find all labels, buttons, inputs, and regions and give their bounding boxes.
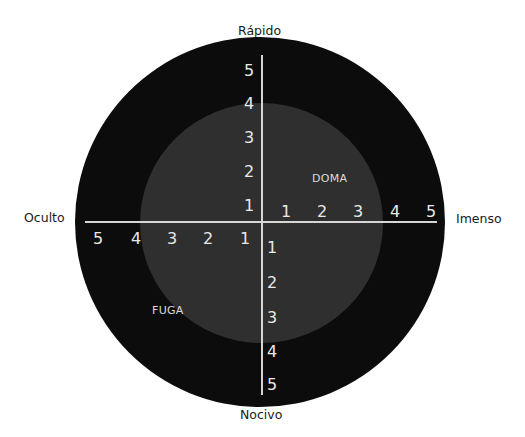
tick-up-1: 1	[239, 196, 259, 216]
tick-right-5: 5	[421, 202, 441, 222]
tick-left-2: 2	[198, 229, 218, 249]
tick-up-2: 2	[239, 162, 259, 182]
tick-up-5: 5	[239, 61, 259, 81]
tick-up-4: 4	[239, 94, 259, 114]
pole-label-right: Imenso	[456, 211, 502, 226]
tick-down-1: 1	[262, 238, 282, 258]
tick-right-4: 4	[385, 202, 405, 222]
tick-right-2: 2	[312, 202, 332, 222]
tick-left-3: 3	[162, 229, 182, 249]
region-label-doma: DOMA	[312, 172, 347, 185]
tick-down-3: 3	[262, 308, 282, 328]
tick-down-5: 5	[262, 375, 282, 395]
tick-left-5: 5	[88, 229, 108, 249]
region-label-fuga: FUGA	[152, 304, 184, 317]
tick-down-2: 2	[262, 273, 282, 293]
axis-diagram: Rápido Nocivo Oculto Imenso DOMA FUGA 1 …	[0, 0, 525, 437]
tick-left-1: 1	[235, 229, 255, 249]
tick-left-4: 4	[126, 229, 146, 249]
tick-up-3: 3	[239, 128, 259, 148]
tick-right-3: 3	[348, 202, 368, 222]
pole-label-top: Rápido	[238, 23, 281, 38]
tick-down-4: 4	[262, 342, 282, 362]
pole-label-bottom: Nocivo	[240, 407, 282, 422]
pole-label-left: Oculto	[24, 210, 65, 225]
tick-right-1: 1	[276, 202, 296, 222]
